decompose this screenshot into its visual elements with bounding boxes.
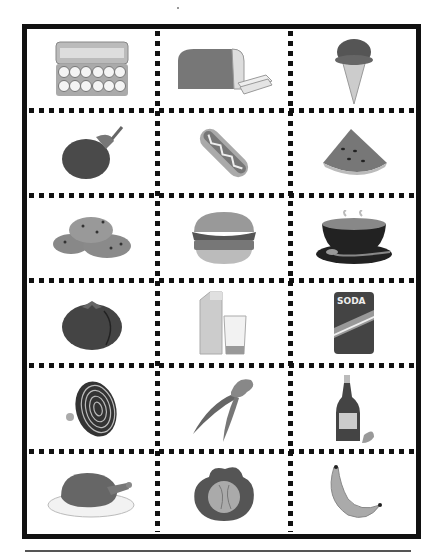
card-eggplant	[29, 113, 155, 193]
card-watermelon	[293, 113, 414, 193]
paper-speck	[177, 7, 179, 9]
ice-cream-cone-icon	[334, 34, 374, 106]
card-onion	[29, 368, 155, 449]
cookies-icon	[51, 214, 133, 262]
onion-half-icon	[62, 377, 122, 441]
carrots-icon	[189, 374, 259, 444]
ketchup-bottle-icon	[332, 373, 376, 445]
card-ice-cream	[293, 31, 414, 108]
card-tomato	[29, 283, 155, 363]
card-soup	[293, 198, 414, 278]
card-carrots	[160, 368, 288, 449]
card-hamburger	[160, 198, 288, 278]
soda-can-icon: SODA	[332, 290, 376, 356]
watermelon-slice-icon	[319, 127, 389, 179]
roast-turkey-icon	[47, 467, 137, 519]
soda-can-label: SODA	[337, 296, 366, 306]
card-bread	[160, 31, 288, 108]
card-cabbage	[160, 454, 288, 532]
card-eggs	[29, 31, 155, 108]
banana-icon	[324, 463, 384, 523]
soup-bowl-icon	[314, 210, 394, 266]
picture-card-sheet: SODA	[22, 24, 421, 539]
hot-dog-icon	[192, 121, 256, 185]
bread-loaf-icon	[174, 45, 274, 95]
cabbage-icon	[191, 463, 257, 523]
card-cookies	[29, 198, 155, 278]
card-banana	[293, 454, 414, 532]
egg-carton-icon	[52, 40, 132, 100]
card-ketchup	[293, 368, 414, 449]
card-turkey	[29, 454, 155, 532]
card-hot-dog	[160, 113, 288, 193]
tomato-icon	[60, 295, 124, 351]
card-milk	[160, 283, 288, 363]
eggplant-icon	[56, 123, 128, 183]
card-soda: SODA	[293, 283, 414, 363]
hamburger-icon	[190, 210, 258, 266]
bottom-rule	[25, 550, 411, 552]
milk-carton-and-glass-icon	[196, 290, 252, 356]
